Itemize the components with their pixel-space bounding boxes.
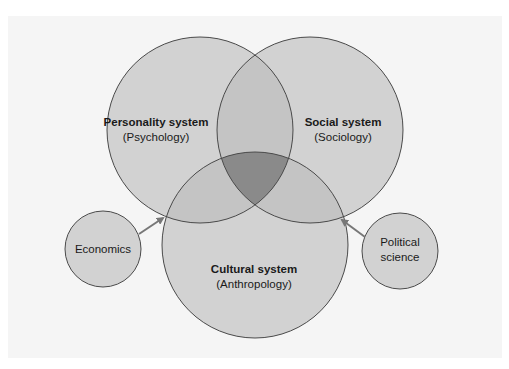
social-title: Social system: [305, 116, 382, 128]
political-science-label-line1: Political: [380, 236, 420, 248]
political-science-label-line2: science: [381, 251, 420, 263]
cultural-title: Cultural system: [211, 263, 297, 275]
personality-subtitle: (Psychology): [123, 131, 190, 143]
economics-arrow: [139, 218, 163, 234]
venn-diagram: Personality system (Psychology) Social s…: [0, 0, 509, 369]
social-subtitle: (Sociology): [314, 131, 372, 143]
cultural-subtitle: (Anthropology): [216, 278, 292, 290]
personality-title: Personality system: [104, 116, 209, 128]
economics-label: Economics: [75, 243, 131, 255]
